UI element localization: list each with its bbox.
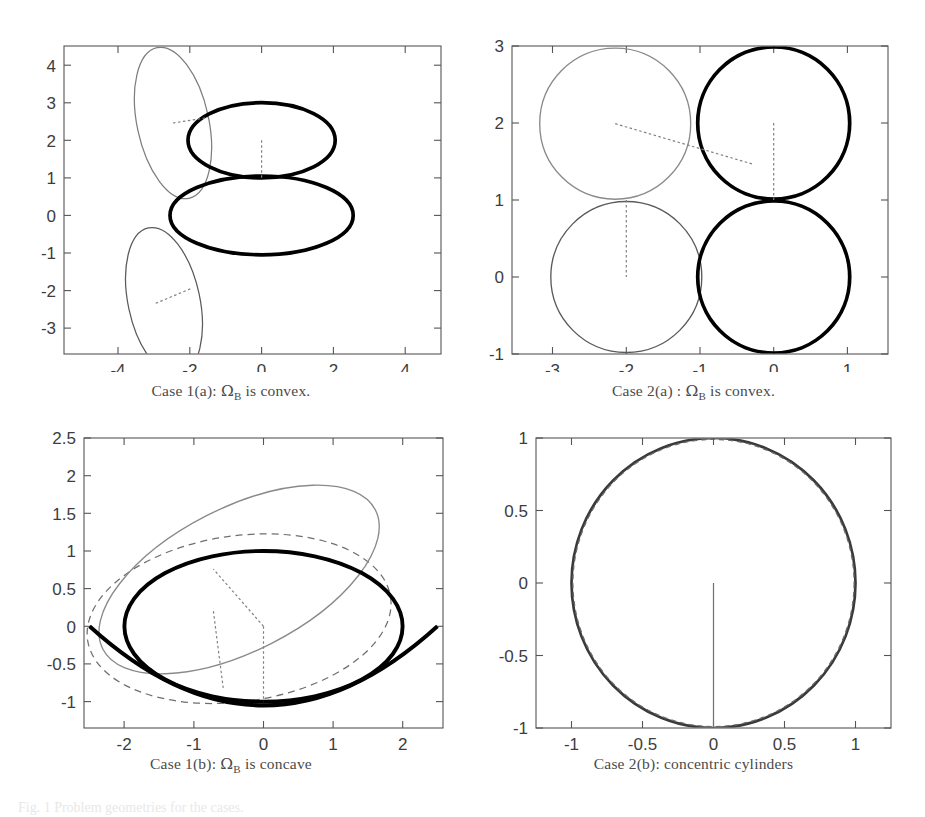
x-tick-label: -2 [182, 361, 197, 372]
omega-symbol: Ω [221, 382, 234, 400]
y-tick-label: 2 [67, 467, 76, 486]
panel-case-2a: -3 -2 -1 0 1 3 2 1 0 -1 [462, 0, 925, 410]
omega-subscript: B [233, 763, 241, 775]
y-tick-label: 2 [495, 114, 504, 133]
caption-suffix: is concave [241, 755, 312, 772]
y-tick-label: 1 [495, 191, 504, 210]
plot-case-1a: -4 -2 0 2 4 4 3 2 1 [0, 0, 462, 372]
y-tick-label: 0 [519, 574, 528, 593]
x-tick-label: -2 [117, 735, 132, 750]
y-tick-label: 1 [67, 542, 76, 561]
y-tick-labels: 3 2 1 0 -1 [489, 37, 504, 364]
y-tick-label: 1 [47, 169, 56, 188]
caption-case-1a: Case 1(a): ΩB is convex. [0, 382, 462, 402]
figure-bottom-caption: Fig. 1 Problem geometries for the cases. [18, 800, 244, 816]
x-tick-label: -1 [186, 735, 201, 750]
figure-root: -4 -2 0 2 4 4 3 2 1 [0, 0, 925, 817]
omega-symbol: Ω [220, 755, 233, 773]
y-tick-label: -0.5 [47, 655, 76, 674]
axes-frame [64, 46, 441, 354]
y-tick-label: 4 [47, 57, 56, 76]
x-tick-label: -1 [692, 361, 707, 372]
caption-suffix: is convex. [706, 382, 775, 399]
x-tick-labels: -2 -1 0 1 2 [117, 735, 408, 750]
y-tick-label: 1.5 [52, 505, 76, 524]
x-tick-label: 0 [769, 361, 778, 372]
x-tick-label: -1 [564, 735, 579, 750]
y-tick-labels: 4 3 2 1 0 -1 -2 -3 [41, 57, 56, 339]
x-tick-label: 0.5 [773, 735, 797, 750]
caption-case-2a: Case 2(a) : ΩB is convex. [462, 382, 925, 402]
caption-case-1b: Case 1(b): ΩB is concave [0, 755, 462, 775]
plot-case-2a: -3 -2 -1 0 1 3 2 1 0 -1 [462, 0, 925, 372]
y-tick-label: -1 [513, 719, 528, 738]
x-tick-label: -2 [619, 361, 634, 372]
x-tick-label: 1 [328, 735, 337, 750]
y-tick-label: -1 [61, 693, 76, 712]
x-tick-labels: -1 -0.5 0 0.5 1 [564, 735, 860, 750]
omega-subscript: B [234, 390, 242, 402]
axes-frame [512, 46, 888, 354]
x-tick-label: 1 [843, 361, 852, 372]
axes-frame [84, 438, 443, 728]
y-tick-label: 0 [47, 207, 56, 226]
caption-text: Case 2(b): concentric cylinders [594, 755, 793, 772]
omega-subscript: B [699, 390, 707, 402]
y-tick-label: 0.5 [504, 502, 528, 521]
y-tick-label: 2 [47, 132, 56, 151]
caption-suffix: is convex. [242, 382, 311, 399]
x-tick-labels: -3 -2 -1 0 1 [545, 361, 852, 372]
y-tick-label: 1 [519, 429, 528, 448]
y-tick-label: -1 [41, 244, 56, 263]
omega-symbol: Ω [685, 382, 698, 400]
x-tick-label: 0 [709, 735, 718, 750]
panel-case-1b: -2 -1 0 1 2 2.5 2 1.5 1 [0, 410, 462, 817]
y-tick-label: -0.5 [499, 647, 528, 666]
x-tick-label: -0.5 [628, 735, 657, 750]
x-tick-label: 4 [400, 361, 409, 372]
x-tick-label: 0 [257, 361, 266, 372]
caption-text: Case 1(a): [152, 382, 221, 399]
x-tick-label: 2 [329, 361, 338, 372]
x-tick-label: 1 [851, 735, 860, 750]
y-tick-label: 2.5 [52, 429, 76, 448]
x-tick-label: 0 [259, 735, 268, 750]
caption-case-2b: Case 2(b): concentric cylinders [462, 755, 925, 773]
y-tick-label: 0 [495, 268, 504, 287]
y-tick-label: -2 [41, 282, 56, 301]
x-tick-label: 2 [398, 735, 407, 750]
panel-case-1a: -4 -2 0 2 4 4 3 2 1 [0, 0, 462, 410]
y-tick-label: 3 [495, 37, 504, 56]
y-tick-labels: 2.5 2 1.5 1 0.5 0 -0.5 -1 [47, 429, 76, 712]
y-tick-labels: 1 0.5 0 -0.5 -1 [499, 429, 528, 738]
panel-case-2b: -1 -0.5 0 0.5 1 1 0.5 0 -0.5 -1 [462, 410, 925, 817]
x-tick-labels: -4 -2 0 2 4 [110, 361, 409, 372]
x-tick-label: -3 [545, 361, 560, 372]
plot-case-1b: -2 -1 0 1 2 2.5 2 1.5 1 [0, 410, 462, 750]
y-tick-label: -1 [489, 345, 504, 364]
y-tick-label: -3 [41, 319, 56, 338]
plot-case-2b: -1 -0.5 0 0.5 1 1 0.5 0 -0.5 -1 [462, 410, 925, 750]
y-tick-label: 0.5 [52, 580, 76, 599]
caption-text: Case 1(b): [150, 755, 220, 772]
y-tick-label: 3 [47, 94, 56, 113]
x-tick-label: -4 [110, 361, 125, 372]
y-tick-label: 0 [67, 618, 76, 637]
caption-text: Case 2(a) : [612, 382, 685, 399]
